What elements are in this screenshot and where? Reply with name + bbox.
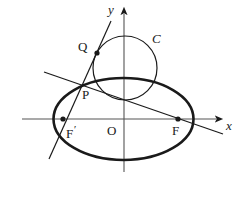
point-label-Q: Q — [78, 40, 87, 53]
circle-label-C: C — [152, 32, 161, 45]
y-axis-label: y — [108, 3, 114, 16]
origin-label: O — [107, 124, 116, 137]
point-label-F-prime: F′ — [66, 124, 76, 140]
figure-canvas — [0, 0, 250, 207]
point-Q-marker — [94, 50, 99, 55]
point-label-F: F — [172, 124, 179, 137]
prime-mark: ′ — [73, 123, 75, 135]
geometry-figure: y x O C Q P F′ F — [0, 0, 250, 207]
point-F-marker — [175, 116, 180, 121]
circle-curve-C — [93, 36, 157, 100]
axes-group — [22, 14, 216, 172]
x-axis-label: x — [226, 119, 232, 132]
point-F-prime-marker — [60, 116, 65, 121]
point-label-P: P — [82, 88, 89, 101]
